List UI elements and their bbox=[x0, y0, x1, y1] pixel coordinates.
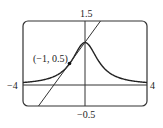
y-min-label: −0.5 bbox=[77, 109, 95, 120]
tangent-point bbox=[68, 62, 72, 66]
y-max-label: 1.5 bbox=[80, 8, 93, 19]
x-min-label: −4 bbox=[7, 80, 18, 91]
graph: 1.5 −0.5 −4 4 (−1, 0.5) bbox=[0, 0, 163, 128]
x-max-label: 4 bbox=[150, 80, 155, 91]
point-label: (−1, 0.5) bbox=[33, 53, 68, 65]
